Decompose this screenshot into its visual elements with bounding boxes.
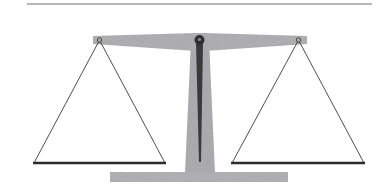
left-pan-string-left bbox=[34, 42, 99, 163]
scale-base bbox=[110, 172, 288, 182]
pivot-hole bbox=[198, 38, 201, 41]
balance-scale-illustration bbox=[0, 0, 392, 192]
right-pan-string-right bbox=[300, 42, 365, 163]
left-pan-string-right bbox=[101, 42, 166, 163]
right-pan-string-left bbox=[232, 42, 298, 163]
